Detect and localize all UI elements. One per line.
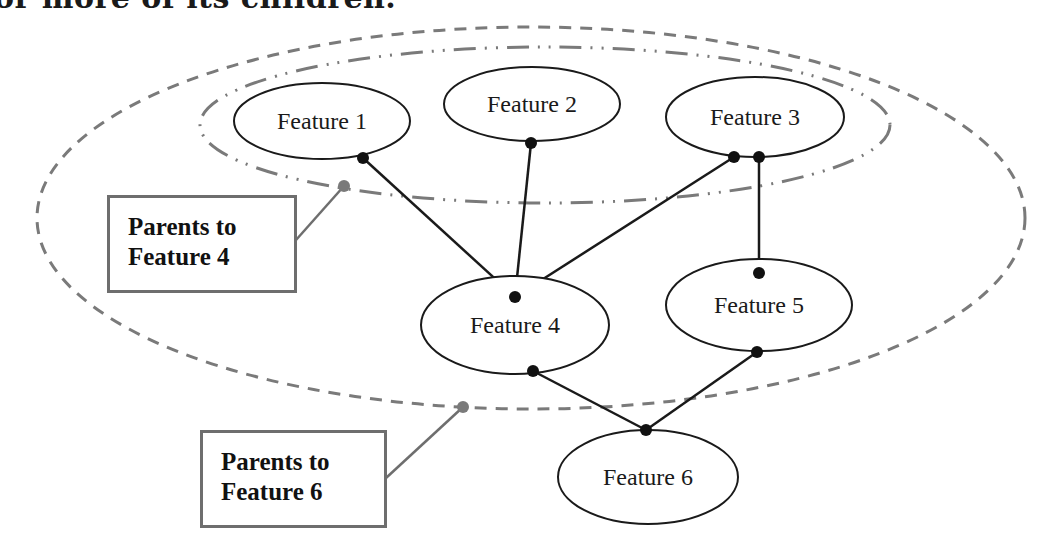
node-label: Feature 2 [487,91,577,117]
callout-leader-feature-6 [386,407,463,478]
connector-dot [527,365,539,377]
callout-anchor-dot-feature-6 [457,401,469,413]
connector-dot [640,424,652,436]
callout-parents-to-feature-4: Parents to Feature 4 [107,195,297,293]
connector-dot [525,137,537,149]
connector-dot [753,267,765,279]
node-feature-1: Feature 1 [234,83,410,159]
connector-dot [509,291,521,303]
connector-dot [728,151,740,163]
node-feature-3: Feature 3 [666,77,844,157]
edge-feature4-feature6 [533,371,646,430]
node-label: Feature 6 [603,464,693,490]
callout-leader-feature-4 [296,186,344,240]
node-feature-2: Feature 2 [444,67,620,141]
callout-line: Parents to [128,212,294,242]
callout-line: Feature 6 [221,477,384,507]
node-label: Feature 4 [470,312,560,338]
diagram-canvas: or more of its children. Feature 1 Featu… [0,0,1053,550]
node-label: Feature 3 [710,104,800,130]
callout-line: Feature 4 [128,242,294,272]
callout-line: Parents to [221,447,384,477]
connector-dot [751,346,763,358]
node-feature-6: Feature 6 [558,430,738,524]
node-feature-4: Feature 4 [421,276,609,374]
edge-feature1-feature4 [363,158,515,297]
callout-anchor-dot-feature-4 [338,180,350,192]
connector-dot [357,152,369,164]
edge-feature5-feature6 [646,352,757,430]
callout-parents-to-feature-6: Parents to Feature 6 [200,430,387,528]
connector-dot [753,151,765,163]
node-label: Feature 5 [714,292,804,318]
node-label: Feature 1 [277,108,367,134]
edge-feature2-feature4 [515,143,531,297]
